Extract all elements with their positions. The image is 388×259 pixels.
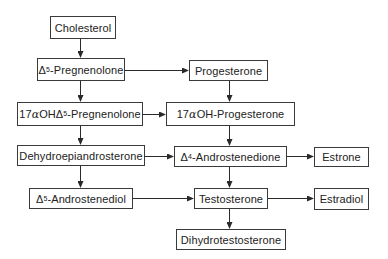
node-label: -Pregnenolone bbox=[50, 64, 123, 76]
node-testosterone: Testosterone bbox=[194, 188, 268, 209]
node-label: Progesterone bbox=[195, 65, 262, 77]
oh-delta: OHΔ bbox=[39, 108, 63, 120]
node-label: -Androstenedione bbox=[192, 151, 280, 163]
node-dihydrotestosterone: Dihydrotestosterone bbox=[176, 229, 286, 250]
node-label: Dehydroepiandrosterone bbox=[19, 150, 142, 162]
node-label: Estrone bbox=[322, 151, 361, 163]
position-number: 17 bbox=[19, 108, 31, 120]
delta-symbol: Δ bbox=[36, 193, 43, 205]
node-estrone: Estrone bbox=[314, 147, 369, 167]
steroidogenesis-diagram: Cholesterol Δ5-Pregnenolone Progesterone… bbox=[0, 0, 388, 259]
node-pregnenolone: Δ5-Pregnenolone bbox=[37, 58, 125, 81]
delta-symbol: Δ bbox=[39, 64, 46, 76]
node-dhea: Dehydroepiandrosterone bbox=[17, 145, 145, 166]
node-androstenedione: Δ4-Androstenedione bbox=[174, 146, 287, 167]
node-17oh-pregnenolone: 17αOHΔ5-Pregnenolone bbox=[17, 102, 143, 126]
alpha-symbol: α bbox=[189, 108, 197, 121]
node-cholesterol: Cholesterol bbox=[50, 16, 116, 39]
position-number: 17 bbox=[177, 108, 189, 120]
node-estradiol: Estradiol bbox=[314, 188, 369, 210]
node-androstenediol: Δ5-Androstenediol bbox=[29, 188, 133, 209]
node-label: Estradiol bbox=[320, 193, 364, 205]
node-progesterone: Progesterone bbox=[189, 60, 268, 81]
node-label: Dihydrotestosterone bbox=[181, 234, 281, 246]
node-label: -Pregnenolone bbox=[67, 108, 140, 120]
node-17oh-progesterone: 17αOH-Progesterone bbox=[166, 102, 295, 126]
node-label: Cholesterol bbox=[55, 22, 112, 34]
node-label: Testosterone bbox=[199, 193, 263, 205]
alpha-symbol: α bbox=[32, 108, 40, 121]
node-label: -Androstenediol bbox=[47, 193, 126, 205]
node-label: OH-Progesterone bbox=[197, 108, 285, 120]
delta-symbol: Δ bbox=[181, 151, 188, 163]
